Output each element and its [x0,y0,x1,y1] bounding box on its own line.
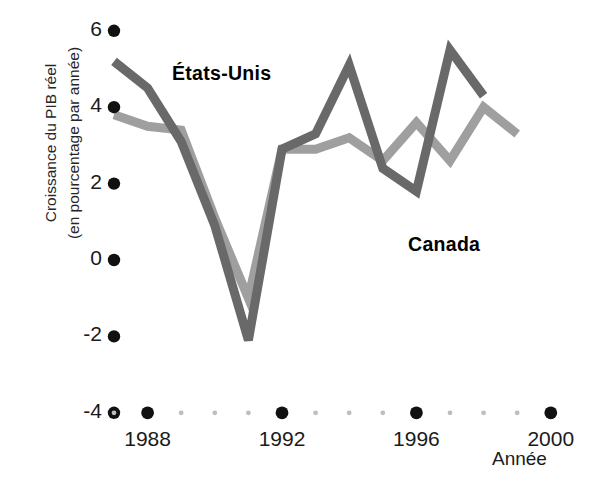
y-axis-label: Croissance du PIB réel (en pourcentage p… [39,13,85,273]
x-tick-dot-minor [448,410,453,415]
y-tick-label: 6 [68,17,102,41]
x-tick-dot-minor [246,410,251,415]
x-tick-label: 1988 [108,427,188,451]
x-tick-dot-minor [179,410,184,415]
x-tick-label: 1996 [376,427,456,451]
y-tick-label: 0 [68,246,102,270]
x-tick-dot-minor [481,410,486,415]
x-tick-dot-minor [347,410,352,415]
y-axis-label-line1: Croissance du PIB réel [39,13,62,273]
x-tick-dot-minor [515,410,520,415]
x-axis-label: Année [492,448,547,470]
x-tick-label: 1992 [242,427,322,451]
x-tick-dot-major [276,406,289,419]
x-tick-dot-minor [112,410,117,415]
y-tick-label: 2 [68,170,102,194]
x-tick-dot-minor [313,410,318,415]
x-tick-dot-minor [380,410,385,415]
y-axis-label-line2: (en pourcentage par année) [62,13,85,273]
y-tick-dot [108,254,120,266]
x-tick-dot-major [141,406,154,419]
x-tick-dot-major [410,406,423,419]
y-tick-dot [108,177,120,189]
series-label-canada: Canada [408,233,480,256]
series-label-etats-unis: États-Unis [172,62,271,85]
series-line-canada [114,50,484,340]
y-tick-dot [108,25,120,37]
y-tick-label: -2 [68,322,102,346]
y-tick-dot [108,101,120,113]
gdp-growth-line-chart: Croissance du PIB réel (en pourcentage p… [0,0,592,484]
x-tick-dot-major [544,406,557,419]
x-tick-dot-minor [212,410,217,415]
y-tick-label: 4 [68,93,102,117]
y-tick-label: -4 [68,399,102,423]
y-tick-dot [108,330,120,342]
